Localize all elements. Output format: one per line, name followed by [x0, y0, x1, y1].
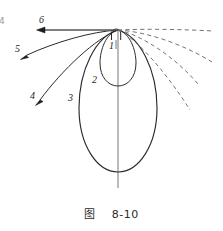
- label-1: 1: [109, 41, 114, 51]
- label-2: 2: [92, 75, 97, 85]
- dashed-curve-1: [118, 29, 214, 31]
- label-4: 4: [30, 91, 35, 101]
- arrow-head-4: [36, 100, 44, 106]
- figure-caption: 图 8-10: [0, 205, 223, 221]
- figure-drawing: [0, 0, 223, 231]
- figure-container: 4 1 2 3 4 5 6 图 8-10: [0, 0, 223, 231]
- dashed-curve-4: [118, 30, 190, 110]
- arrow-head-6: [37, 27, 46, 33]
- label-6: 6: [39, 15, 44, 25]
- label-5: 5: [15, 44, 20, 54]
- emanating-curve-4: [40, 30, 118, 100]
- label-3: 3: [68, 93, 73, 103]
- arrow-head-5: [21, 56, 29, 60]
